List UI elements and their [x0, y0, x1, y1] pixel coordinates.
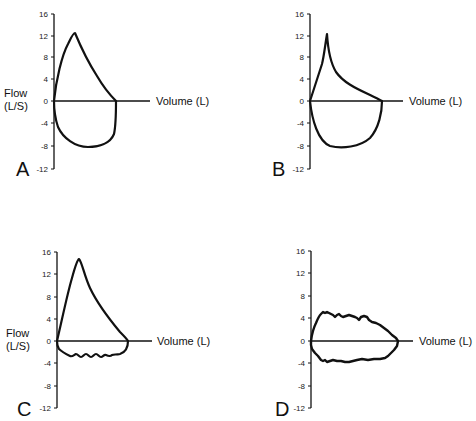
x-axis-label: Volume (L) [157, 335, 210, 347]
flow-volume-loop-d [311, 312, 398, 362]
tick-label: 16 [42, 248, 51, 257]
tick-label: 8 [47, 293, 52, 302]
tick-label: 8 [44, 53, 49, 62]
tick-label: 4 [47, 315, 52, 324]
tick-label: 16 [296, 247, 305, 256]
tick-label: 12 [295, 32, 304, 41]
tick-label: -4 [44, 359, 52, 368]
panel-d: 16 12 8 4 0 -4 -8 -12 Volume (L) D [275, 247, 472, 420]
y-axis-label: Flow [4, 87, 27, 99]
tick-label: -12 [292, 165, 304, 174]
panel-a: 16 12 8 4 0 -4 -8 -12 Flow (L/S) Volume … [4, 10, 209, 180]
tick-label: -12 [36, 165, 48, 174]
tick-label: 4 [301, 314, 306, 323]
tick-label: 16 [295, 10, 304, 19]
tick-label: 12 [39, 32, 48, 41]
flow-volume-loop-c [57, 259, 128, 357]
tick-label: 8 [300, 53, 305, 62]
panel-letter: A [16, 158, 30, 180]
tick-label: -8 [297, 142, 305, 151]
tick-label: 0 [47, 337, 52, 346]
tick-label: -4 [297, 119, 305, 128]
tick-label: 4 [44, 75, 49, 84]
panel-b: 16 12 8 4 0 -4 -8 -12 Volume (L) B [272, 10, 462, 180]
tick-label: -8 [41, 142, 49, 151]
tick-label: 0 [44, 97, 49, 106]
flow-volume-loop-a [54, 33, 116, 147]
flow-volume-loop-b [310, 34, 382, 147]
tick-label: 12 [296, 269, 305, 278]
panel-letter: D [275, 398, 289, 420]
flow-volume-figure: 16 12 8 4 0 -4 -8 -12 Flow (L/S) Volume … [0, 0, 476, 421]
x-axis-label: Volume (L) [156, 95, 209, 107]
y-axis-label: Flow [6, 327, 29, 339]
x-axis-label: Volume (L) [419, 335, 472, 347]
tick-label: -8 [298, 382, 306, 391]
tick-label: 12 [42, 270, 51, 279]
tick-label: -4 [298, 359, 306, 368]
tick-label: -4 [41, 119, 49, 128]
tick-label: 0 [301, 337, 306, 346]
y-axis-label: (L/S) [4, 100, 28, 112]
panel-c: 16 12 8 4 0 -4 -8 -12 Flow (L/S) Volume … [6, 248, 210, 420]
tick-label: -12 [39, 404, 51, 413]
x-axis-label: Volume (L) [409, 95, 462, 107]
tick-label: 0 [300, 97, 305, 106]
panel-letter: C [17, 398, 31, 420]
tick-label: -8 [44, 382, 52, 391]
tick-label: -12 [293, 404, 305, 413]
tick-label: 16 [39, 10, 48, 19]
tick-label: 4 [300, 75, 305, 84]
tick-label: 8 [301, 292, 306, 301]
panel-letter: B [272, 158, 285, 180]
y-axis-label: (L/S) [6, 340, 30, 352]
